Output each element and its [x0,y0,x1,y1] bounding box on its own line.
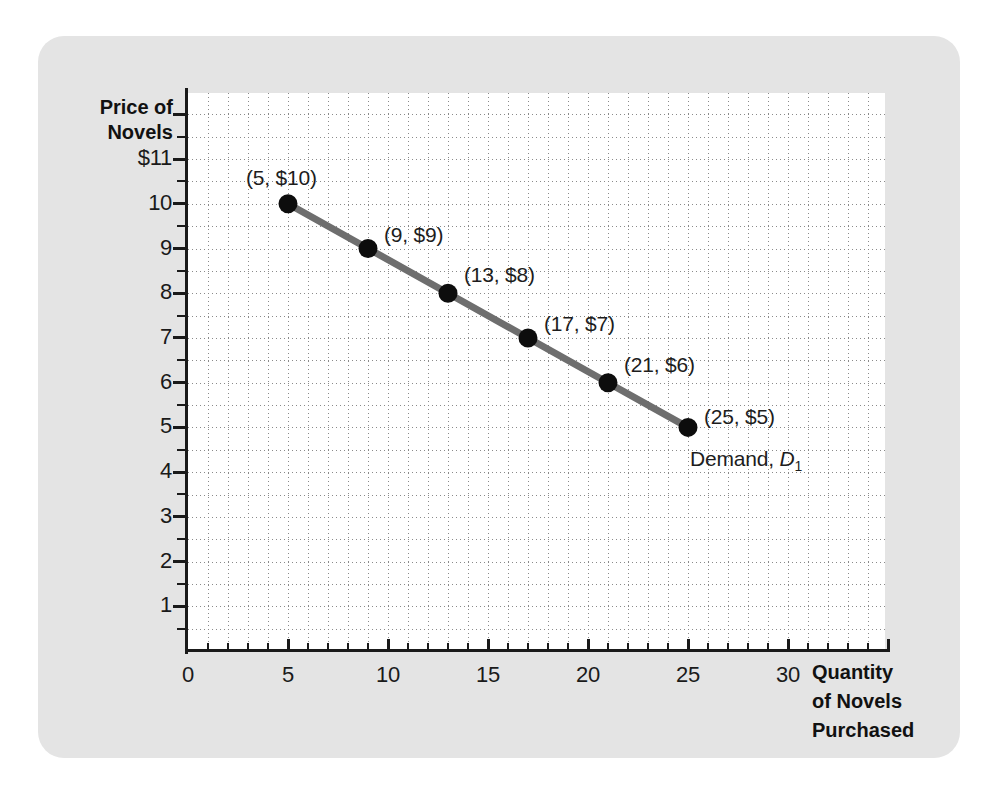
data-point-label: (25, $5) [704,405,775,429]
x-tick-label: 20 [558,662,618,688]
x-tick-minor [527,643,529,652]
x-tick-minor [207,643,209,652]
data-point-label: (17, $7) [544,312,615,336]
x-tick-label: 0 [158,662,218,688]
grid-line-horizontal [188,338,885,339]
grid-line-horizontal [188,495,885,496]
grid-line-horizontal [188,271,885,272]
x-axis-title-line2: of Novels [812,687,952,716]
x-tick-minor [607,643,609,652]
y-tick-major [173,158,186,161]
demand-curve-label: Demand, D1 [690,447,802,474]
data-point-label: (9, $9) [384,223,443,247]
y-tick-minor [177,136,186,138]
y-tick-minor [177,449,186,451]
demand-symbol: D [779,447,794,470]
x-tick-minor [467,643,469,652]
y-tick-minor [177,583,186,585]
demand-subscript: 1 [794,458,802,474]
y-tick-minor [177,315,186,317]
grid-line-horizontal [188,137,885,138]
x-tick-label: 5 [258,662,318,688]
x-tick-label: 30 [758,662,818,688]
grid-line-horizontal [188,405,885,406]
y-tick-minor [177,404,186,406]
y-tick-label: 1 [110,592,172,618]
x-tick-label: 25 [658,662,718,688]
grid-line-horizontal [188,293,885,294]
y-tick-label: 7 [110,324,172,350]
x-tick-major [387,639,390,652]
x-tick-major [587,639,590,652]
x-tick-minor [647,643,649,652]
y-axis-title-line1: Price of [60,95,173,120]
y-tick-major [173,292,186,295]
x-tick-minor [627,643,629,652]
y-tick-minor [177,225,186,227]
data-point-label: (5, $10) [246,166,317,190]
x-tick-minor [567,643,569,652]
x-tick-minor [827,643,829,652]
chart-page: 12345678910$11 051015202530 Price of Nov… [0,0,997,800]
y-tick-label: 5 [110,413,172,439]
y-axis-title: Price of Novels [60,95,173,145]
y-axis-line [185,88,188,654]
grid-line-horizontal [188,427,885,428]
x-tick-minor [347,643,349,652]
y-tick-minor [177,180,186,182]
x-tick-minor [227,643,229,652]
grid-line-horizontal [188,562,885,563]
y-tick-label: 9 [110,235,172,261]
grid-line-horizontal [188,606,885,607]
x-tick-minor [327,643,329,652]
y-tick-label: $11 [110,145,172,171]
y-tick-major [173,426,186,429]
grid-line-horizontal [188,539,885,540]
x-tick-minor [447,643,449,652]
y-tick-major [173,560,186,563]
y-tick-label: 4 [110,458,172,484]
grid-line-horizontal [188,159,885,160]
grid-line-horizontal [188,584,885,585]
y-tick-minor [177,270,186,272]
x-tick-minor [247,643,249,652]
y-tick-major [173,605,186,608]
x-tick-minor [867,643,869,652]
y-tick-label: 2 [110,548,172,574]
x-axis-line [185,649,888,652]
x-axis-title-line1: Quantity [812,658,952,687]
x-axis-title: Quantity of Novels Purchased [812,658,952,745]
x-tick-label: 15 [458,662,518,688]
data-point-label: (13, $8) [464,263,535,287]
grid-line-horizontal [188,226,885,227]
x-tick-minor [667,643,669,652]
x-tick-label: 10 [358,662,418,688]
y-tick-minor [177,538,186,540]
grid-line-horizontal [188,360,885,361]
grid-line-horizontal [188,204,885,205]
y-tick-minor [177,628,186,630]
y-tick-minor [177,359,186,361]
y-tick-major [173,202,186,205]
x-tick-major [787,639,790,652]
x-tick-minor [367,643,369,652]
y-tick-major [173,515,186,518]
grid-line-horizontal [188,249,885,250]
x-axis-title-line3: Purchased [812,716,952,745]
x-tick-minor [847,643,849,652]
grid-line-horizontal [188,629,885,630]
x-tick-major [687,639,690,652]
data-point-label: (21, $6) [624,353,695,377]
y-tick-label: 10 [110,190,172,216]
x-tick-major [287,639,290,652]
x-tick-minor [807,643,809,652]
grid-line-horizontal [188,383,885,384]
x-tick-minor [407,643,409,652]
x-tick-minor [747,643,749,652]
y-tick-major [173,336,186,339]
y-axis-title-line2: Novels [60,120,173,145]
y-tick-major [173,247,186,250]
y-tick-major [173,113,186,116]
grid-line-horizontal [188,114,885,115]
y-tick-minor [177,493,186,495]
